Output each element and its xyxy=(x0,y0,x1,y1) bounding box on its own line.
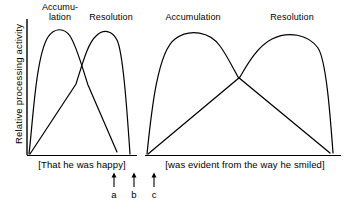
marker-arrow-b xyxy=(132,173,137,188)
marker-label-b: b xyxy=(127,189,141,200)
category-label-right: [was evident from the way he smiled] xyxy=(142,160,348,170)
marker-arrow-a xyxy=(112,173,117,188)
curve-label-accumulation-left: Accumu- lation xyxy=(31,2,89,22)
curve-label-resolution-right: Resolution xyxy=(259,12,325,22)
category-label-left: [That he was happy] xyxy=(24,160,140,170)
curve-resolution-left xyxy=(30,31,130,154)
curve-accumulation-right xyxy=(147,33,330,154)
marker-arrow-c xyxy=(152,173,157,188)
y-axis-label: Relative processing activity xyxy=(14,8,24,160)
marker-label-c: c xyxy=(147,189,161,200)
curve-label-resolution-left: Resolution xyxy=(82,12,140,22)
chart-plot-area xyxy=(0,0,349,209)
curve-resolution-right xyxy=(148,35,333,154)
figure-container: Relative processing activity Accumu- lat… xyxy=(0,0,349,209)
curve-label-accumulation-right: Accumulation xyxy=(155,12,231,22)
marker-label-a: a xyxy=(107,189,121,200)
